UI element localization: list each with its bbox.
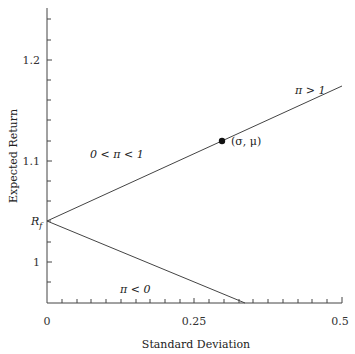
region-mid-label: 0 < π < 1	[90, 148, 144, 161]
portfolio-point	[219, 138, 225, 144]
x-tick-label-0.25: 0.25	[182, 315, 207, 328]
y-axis-title: Expected Return	[7, 109, 20, 203]
x-tick-label-0.5: 0.5	[331, 315, 349, 328]
y-tick-label-1.2: 1.2	[23, 54, 41, 67]
point-label: (σ, μ)	[231, 135, 261, 148]
y-tick-label-1.1: 1.1	[23, 155, 41, 168]
y-tick-label-1: 1	[33, 256, 40, 269]
x-ticks	[62, 297, 342, 303]
region-neg-label: π < 0	[119, 283, 150, 296]
x-tick-label-0: 0	[44, 315, 51, 328]
rf-label: Rf	[30, 215, 44, 230]
x-axis-title: Standard Deviation	[142, 338, 250, 351]
region-high-label: π > 1	[294, 84, 325, 97]
y-ticks	[47, 19, 52, 282]
chart: 1.2 1.1 1 0 0.25 0.5 Standard Deviation …	[0, 0, 355, 354]
